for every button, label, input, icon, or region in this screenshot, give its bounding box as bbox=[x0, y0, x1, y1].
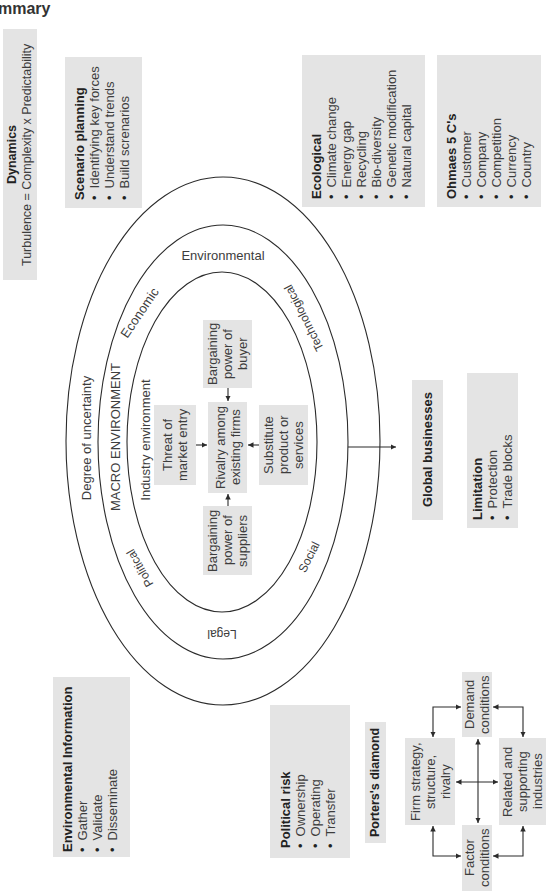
list-item: •Company bbox=[474, 63, 489, 199]
box-line: supporting bbox=[515, 751, 530, 812]
label-legal: Legal bbox=[207, 627, 236, 641]
environmental-information-box: Environmental Information •Gather •Valid… bbox=[53, 677, 130, 857]
box-line: Rivalry among bbox=[213, 406, 228, 489]
list-item: •Energy gap bbox=[339, 63, 354, 199]
box-line: power of bbox=[220, 329, 235, 379]
list-item: •Operating bbox=[308, 715, 323, 848]
list-item-text: Country bbox=[519, 142, 534, 188]
bullet-icon: • bbox=[117, 195, 132, 200]
label-macro-environment: MACRO ENVIRONMENT bbox=[109, 363, 123, 511]
bullet-icon: • bbox=[399, 194, 414, 199]
bargaining-power-suppliers-box: Bargaining power of suppliers bbox=[203, 506, 252, 575]
list-item: •Transfer bbox=[323, 715, 338, 848]
box-line: suppliers bbox=[235, 514, 250, 566]
bullet-icon: • bbox=[485, 515, 500, 520]
bullet-icon: • bbox=[500, 515, 515, 520]
list-item: •Customer bbox=[459, 63, 474, 199]
list-item-text: Operating bbox=[308, 779, 323, 836]
list-item: •Natural capital bbox=[399, 63, 414, 199]
bullet-icon: • bbox=[474, 194, 489, 199]
limitation-box: Limitation •Protection •Trade blocks bbox=[467, 373, 518, 528]
box-line: Firm strategy, bbox=[408, 742, 423, 821]
list-item-text: Climate change bbox=[324, 97, 339, 187]
rivalry-box: Rivalry among existing firms bbox=[208, 402, 247, 493]
ohmaes-5cs-box: Ohmaes 5 C's •Customer •Company •Competi… bbox=[437, 55, 541, 207]
list-item: •Identifying key forces bbox=[87, 65, 102, 200]
box-line: Factor bbox=[462, 840, 477, 877]
box-line: Threat of bbox=[160, 419, 175, 471]
list-item-text: Company bbox=[474, 132, 489, 188]
list-item-text: Protection bbox=[485, 450, 500, 509]
box-line: market entry bbox=[175, 409, 190, 481]
list-item-text: Understand trends bbox=[102, 81, 117, 188]
list-item-text: Currency bbox=[504, 135, 519, 188]
list-item-text: Competition bbox=[489, 118, 504, 187]
label-degree-of-uncertainty: Degree of uncertainty bbox=[80, 376, 94, 500]
bullet-icon: • bbox=[87, 195, 102, 200]
list-item-text: Disseminate bbox=[105, 769, 120, 841]
bullet-icon: • bbox=[369, 194, 384, 199]
bullet-icon: • bbox=[354, 194, 369, 199]
political-risk-title: Political risk bbox=[278, 715, 293, 848]
substitute-products-box: Substitute product or services bbox=[259, 405, 308, 485]
list-item: •Trade blocks bbox=[500, 381, 515, 520]
ecological-title: Ecological bbox=[309, 63, 324, 199]
list-item: •Build screnarios bbox=[117, 65, 132, 200]
bullet-icon: • bbox=[102, 195, 117, 200]
box-line: Bargaining bbox=[205, 509, 220, 571]
list-item: •Genetic modification bbox=[384, 63, 399, 199]
list-item: •Climate change bbox=[324, 63, 339, 199]
box-line: product or bbox=[276, 416, 291, 475]
box-line: conditions bbox=[477, 829, 492, 888]
label-environmental: Environmental bbox=[181, 249, 264, 263]
list-item-text: Validate bbox=[90, 794, 105, 840]
list-item: •Gather bbox=[75, 682, 90, 852]
list-item: •Recycling bbox=[354, 63, 369, 199]
bullet-icon: • bbox=[293, 843, 308, 848]
box-line: industries bbox=[530, 754, 545, 810]
porters-diamond-title-box: Porters's diamond bbox=[365, 722, 386, 843]
ecological-box: Ecological •Climate change •Energy gap •… bbox=[302, 55, 425, 207]
list-item-text: Gather bbox=[75, 801, 90, 841]
porters-diamond-title: Porters's diamond bbox=[368, 728, 383, 837]
list-item-text: Transfer bbox=[323, 789, 338, 837]
bullet-icon: • bbox=[459, 194, 474, 199]
dynamics-title: Dynamics bbox=[5, 125, 20, 184]
bullet-icon: • bbox=[339, 194, 354, 199]
box-line: existing firms bbox=[228, 410, 243, 486]
list-item-text: Build screnarios bbox=[117, 96, 132, 189]
list-item-text: Identifying key forces bbox=[87, 66, 102, 188]
list-item-text: Bio-diversity bbox=[369, 117, 384, 188]
list-item: •Disseminate bbox=[105, 682, 120, 852]
global-businesses-label: Global businesses bbox=[420, 393, 435, 508]
summary-diagram-page: mmary Dynamics Turbulence bbox=[0, 0, 546, 891]
global-businesses-box: Global businesses bbox=[412, 380, 443, 520]
box-line: Bargaining bbox=[205, 323, 220, 385]
arrow-demand-related bbox=[493, 707, 523, 737]
box-line: power of bbox=[220, 516, 235, 566]
political-risk-box: Political risk •Ownership •Operating •Tr… bbox=[270, 705, 350, 858]
list-item-text: Natural capital bbox=[399, 104, 414, 187]
list-item: •Ownership bbox=[293, 715, 308, 848]
list-item: •Understand trends bbox=[102, 65, 117, 200]
list-item-text: Energy gap bbox=[339, 121, 354, 188]
bargaining-power-buyer-box: Bargaining power of buyer bbox=[203, 320, 252, 388]
list-item: •Bio-diversity bbox=[369, 63, 384, 199]
arrow-firm-factor bbox=[433, 826, 461, 856]
list-item-text: Recycling bbox=[354, 131, 369, 187]
dynamics-box: Dynamics Turbulence = Complexity x Predi… bbox=[3, 29, 37, 280]
label-industry-environment: Industry environment bbox=[139, 379, 153, 500]
scenario-planning-title: Scenario planning bbox=[72, 65, 87, 200]
limitation-title: Limitation bbox=[470, 381, 485, 520]
demand-conditions-box: Demand conditions bbox=[462, 672, 492, 737]
arrow-related-factor bbox=[493, 826, 523, 856]
bullet-icon: • bbox=[323, 843, 338, 848]
box-line: Demand bbox=[462, 680, 477, 729]
box-line: conditions bbox=[477, 675, 492, 734]
dynamics-formula: Turbulence = Complexity x Predictability bbox=[20, 43, 35, 265]
box-line: structure, bbox=[423, 754, 438, 808]
list-item: •Validate bbox=[90, 682, 105, 852]
bullet-icon: • bbox=[384, 194, 399, 199]
bullet-icon: • bbox=[519, 194, 534, 199]
box-line: Substitute bbox=[261, 416, 276, 474]
